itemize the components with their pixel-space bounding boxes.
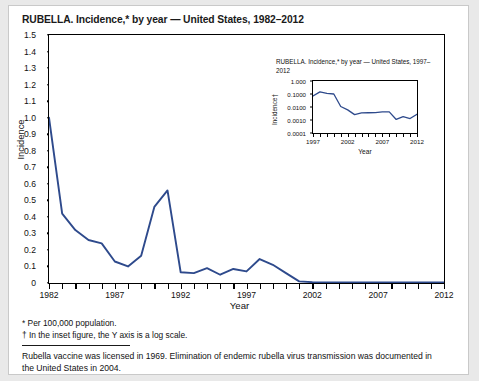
main-y-tick-label: 1.0 — [24, 113, 36, 123]
main-x-tick-label: 1987 — [105, 290, 124, 300]
inset-y-tick-label: 0.0001 — [287, 130, 306, 137]
inset-x-tick-mark — [375, 134, 376, 137]
main-x-tick-mark — [260, 284, 261, 289]
inset-x-tick-mark — [348, 134, 349, 137]
main-x-tick-mark — [154, 284, 155, 289]
main-x-tick-mark — [431, 284, 432, 289]
main-x-tick-mark — [352, 284, 353, 289]
footnote-divider — [22, 345, 130, 346]
main-x-tick-mark — [233, 284, 234, 289]
inset-y-tick-label: 0.1000 — [287, 91, 306, 98]
inset-series-line — [313, 81, 417, 133]
inset-x-tick-mark — [417, 134, 418, 137]
figure-panel: RUBELLA. Incidence,* by year — United St… — [8, 5, 469, 375]
main-y-tick-label: 1.3 — [24, 63, 36, 73]
main-x-tick-mark — [102, 284, 103, 289]
main-x-tick-mark — [339, 284, 340, 289]
inset-x-tick-mark — [362, 134, 363, 137]
main-x-tick-mark — [378, 284, 379, 289]
inset-x-tick-label: 2002 — [341, 138, 355, 145]
main-y-axis-ticks: 1.51.41.31.21.11.00.90.80.70.60.50.40.30… — [17, 34, 45, 284]
main-y-tick-label: 0.4 — [24, 212, 36, 222]
main-x-tick-label: 2007 — [369, 290, 388, 300]
main-x-axis-label: Year — [9, 300, 470, 311]
inset-x-tick-label: 2007 — [375, 138, 389, 145]
main-x-tick-mark — [75, 284, 76, 289]
inset-y-axis-ticks: 1.0000.10000.01000.00100.0001 — [272, 80, 312, 134]
inset-x-tick-mark — [382, 134, 383, 137]
main-x-tick-mark — [168, 284, 169, 289]
main-x-tick-label: 1997 — [237, 290, 256, 300]
footnote-note: Rubella vaccine was licensed in 1969. El… — [22, 350, 446, 374]
main-x-tick-mark — [194, 284, 195, 289]
main-x-tick-mark — [365, 284, 366, 289]
main-x-tick-mark — [418, 284, 419, 289]
inset-x-axis-label: Year — [312, 148, 418, 155]
inset-x-tick-mark — [334, 134, 335, 137]
main-y-tick-label: 0 — [31, 278, 36, 288]
main-x-tick-mark — [299, 284, 300, 289]
page-title: RUBELLA. Incidence,* by year — United St… — [22, 14, 304, 25]
inset-x-tick-mark — [389, 134, 390, 137]
main-y-tick-label: 0.6 — [24, 179, 36, 189]
inset-y-tick-label: 0.0100 — [287, 104, 306, 111]
main-x-tick-label: 2002 — [303, 290, 322, 300]
main-x-tick-mark — [326, 284, 327, 289]
footnote-dagger: † In the inset figure, the Y axis is a l… — [22, 330, 458, 342]
inset-y-tick-label: 1.000 — [291, 78, 306, 85]
main-y-tick-label: 1.1 — [24, 96, 36, 106]
inset-y-tick-label: 0.0010 — [287, 117, 306, 124]
inset-x-tick-mark — [355, 134, 356, 137]
main-y-tick-label: 0.2 — [24, 245, 36, 255]
main-y-tick-label: 0.1 — [24, 261, 36, 271]
main-x-tick-label: 2012 — [434, 290, 453, 300]
main-y-tick-label: 1.4 — [24, 47, 36, 57]
main-x-tick-mark — [312, 284, 313, 289]
footnote-star: * Per 100,000 population. — [22, 318, 458, 330]
main-x-tick-mark — [444, 284, 445, 289]
inset-x-tick-mark — [313, 134, 314, 137]
main-x-tick-mark — [391, 284, 392, 289]
main-x-tick-mark — [89, 284, 90, 289]
main-x-tick-mark — [247, 284, 248, 289]
inset-x-tick-label: 1997 — [306, 138, 320, 145]
inset-x-tick-mark — [320, 134, 321, 137]
main-x-tick-mark — [220, 284, 221, 289]
inset-x-tick-label: 2012 — [410, 138, 424, 145]
main-y-tick-label: 0.9 — [24, 129, 36, 139]
main-x-tick-mark — [181, 284, 182, 289]
main-y-tick-label: 0.3 — [24, 228, 36, 238]
main-x-tick-mark — [128, 284, 129, 289]
main-y-tick-label: 0.7 — [24, 162, 36, 172]
main-x-tick-mark — [286, 284, 287, 289]
inset-plot-area — [312, 80, 418, 134]
footnotes: * Per 100,000 population. † In the inset… — [22, 318, 458, 374]
inset-title: RUBELLA. Incidence,* by year — United St… — [276, 58, 444, 75]
main-x-tick-mark — [273, 284, 274, 289]
inset-chart: RUBELLA. Incidence,* by year — United St… — [264, 58, 444, 168]
main-x-tick-mark — [62, 284, 63, 289]
main-x-tick-mark — [49, 284, 50, 289]
inset-x-tick-mark — [368, 134, 369, 137]
main-x-tick-label: 1992 — [171, 290, 190, 300]
main-y-tick-label: 0.5 — [24, 195, 36, 205]
main-x-tick-mark — [405, 284, 406, 289]
main-x-tick-label: 1982 — [39, 290, 58, 300]
main-y-tick-label: 1.5 — [24, 30, 36, 40]
main-x-tick-mark — [141, 284, 142, 289]
inset-x-tick-mark — [396, 134, 397, 137]
main-y-tick-label: 1.2 — [24, 80, 36, 90]
inset-x-tick-mark — [410, 134, 411, 137]
main-y-tick-label: 0.8 — [24, 146, 36, 156]
inset-x-tick-mark — [341, 134, 342, 137]
inset-x-tick-mark — [403, 134, 404, 137]
main-x-tick-mark — [115, 284, 116, 289]
inset-x-tick-mark — [327, 134, 328, 137]
main-x-tick-mark — [207, 284, 208, 289]
